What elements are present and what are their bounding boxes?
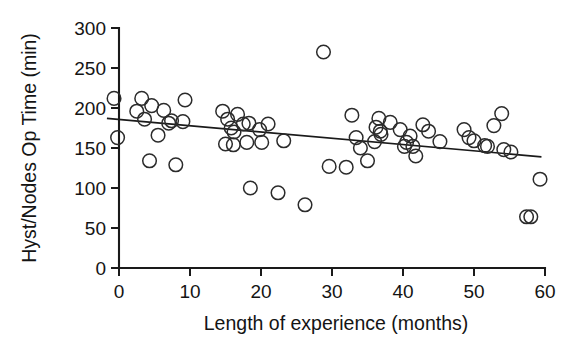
data-point: [216, 104, 230, 118]
data-point: [457, 123, 471, 137]
scatter-chart: 0501001502002503000102030405060 Hyst/Nod…: [0, 0, 587, 348]
data-point: [138, 112, 152, 126]
y-tick-label-150: 150: [74, 138, 106, 159]
data-point: [361, 154, 375, 168]
data-point: [298, 198, 312, 212]
tick-labels-group: 0501001502002503000102030405060: [74, 18, 555, 302]
data-point: [409, 149, 423, 163]
figure-container: 0501001502002503000102030405060 Hyst/Nod…: [0, 0, 587, 348]
x-tick-label-60: 60: [534, 281, 555, 302]
y-tick-label-200: 200: [74, 98, 106, 119]
y-tick-label-50: 50: [85, 218, 106, 239]
data-point: [533, 172, 547, 186]
data-point: [339, 160, 353, 174]
data-point: [487, 119, 501, 133]
y-axis-title: Hyst/Nodes Op Time (min): [18, 33, 40, 263]
data-point: [169, 158, 183, 172]
data-point: [345, 108, 359, 122]
data-point: [143, 154, 157, 168]
data-point: [277, 134, 291, 148]
data-point: [495, 107, 509, 121]
data-point: [383, 116, 397, 130]
x-tick-label-0: 0: [114, 281, 125, 302]
data-points-group: [107, 45, 547, 223]
data-point: [178, 93, 192, 107]
data-point: [317, 45, 331, 59]
y-tick-label-100: 100: [74, 178, 106, 199]
data-point: [111, 131, 125, 145]
data-point: [135, 92, 149, 106]
data-point: [467, 134, 481, 148]
data-point: [227, 125, 241, 139]
data-point: [393, 123, 407, 137]
data-point: [240, 136, 254, 150]
y-tick-label-0: 0: [95, 258, 106, 279]
data-point: [244, 181, 258, 195]
data-point: [271, 186, 285, 200]
data-point: [130, 104, 144, 118]
data-point: [433, 135, 447, 149]
x-tick-label-40: 40: [392, 281, 413, 302]
data-point: [462, 131, 476, 145]
y-tick-label-300: 300: [74, 18, 106, 39]
data-point: [151, 128, 165, 142]
x-tick-label-30: 30: [321, 281, 342, 302]
data-point: [255, 136, 269, 150]
x-tick-label-20: 20: [250, 281, 271, 302]
data-point: [322, 160, 336, 174]
x-tick-label-50: 50: [463, 281, 484, 302]
y-tick-label-250: 250: [74, 58, 106, 79]
x-axis-title: Length of experience (months): [204, 312, 469, 334]
x-tick-label-10: 10: [179, 281, 200, 302]
data-point: [227, 138, 241, 152]
